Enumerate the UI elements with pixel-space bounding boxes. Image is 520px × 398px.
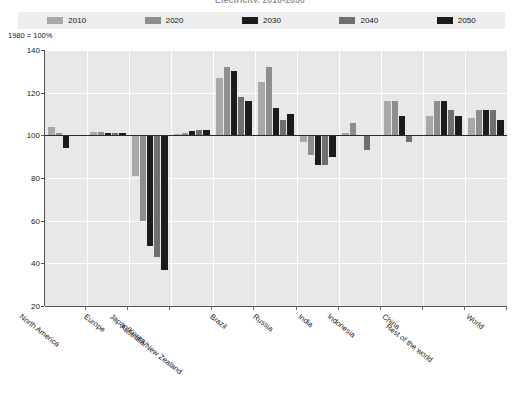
bar-slot — [105, 50, 111, 306]
bar-slot — [174, 50, 180, 306]
bar-2030[interactable] — [147, 135, 153, 246]
x-axis-label: World — [464, 312, 485, 331]
bar-2050[interactable] — [329, 135, 335, 156]
bar-2030[interactable] — [483, 110, 489, 136]
legend-item-2020[interactable]: 2020 — [145, 17, 184, 25]
bar-slot — [329, 50, 335, 306]
bar-set — [174, 50, 209, 306]
bar-2010[interactable] — [216, 78, 222, 136]
legend-swatch-icon — [145, 17, 161, 24]
legend-item-2040[interactable]: 2040 — [339, 17, 378, 25]
bar-slot — [273, 50, 279, 306]
bar-slot — [231, 50, 237, 306]
bar-slot — [384, 50, 390, 306]
bar-2030[interactable] — [315, 135, 321, 165]
x-label-cell: Brazil — [212, 310, 254, 372]
bar-slot — [413, 50, 419, 306]
bar-slot — [70, 50, 76, 306]
bar-2020[interactable] — [476, 110, 482, 136]
bar-2040[interactable] — [154, 135, 160, 257]
plot-area — [44, 50, 507, 306]
bar-2050[interactable] — [287, 114, 293, 135]
bar-slot — [322, 50, 328, 306]
bar-slot — [132, 50, 138, 306]
bar-set — [90, 50, 125, 306]
bar-2020[interactable] — [434, 101, 440, 135]
legend-swatch-icon — [437, 17, 453, 24]
legend-item-2050[interactable]: 2050 — [437, 17, 476, 25]
y-tick-label: 60 — [31, 216, 40, 225]
bar-group — [213, 50, 255, 306]
bar-2030[interactable] — [399, 116, 405, 135]
bar-2030[interactable] — [63, 135, 69, 148]
bar-2010[interactable] — [468, 118, 474, 135]
bar-slot — [308, 50, 314, 306]
y-tick-label: 120 — [27, 88, 40, 97]
bar-2020[interactable] — [392, 101, 398, 135]
bar-slot — [483, 50, 489, 306]
x-axis-label: Europe — [82, 312, 107, 334]
bar-2050[interactable] — [497, 120, 503, 135]
bar-slot — [161, 50, 167, 306]
bar-2010[interactable] — [300, 135, 306, 141]
bar-2020[interactable] — [140, 135, 146, 220]
bar-2040[interactable] — [490, 110, 496, 136]
bar-2050[interactable] — [245, 101, 251, 135]
bar-2040[interactable] — [238, 97, 244, 135]
bar-2020[interactable] — [224, 67, 230, 135]
bar-set — [216, 50, 251, 306]
legend-label: 2050 — [458, 17, 476, 25]
bar-2040[interactable] — [364, 135, 370, 150]
bar-slot — [300, 50, 306, 306]
bar-2050[interactable] — [161, 135, 167, 269]
bar-2040[interactable] — [448, 110, 454, 136]
bar-slot — [203, 50, 209, 306]
bar-slot — [238, 50, 244, 306]
bar-2040[interactable] — [406, 135, 412, 141]
bar-slot — [371, 50, 377, 306]
bar-2030[interactable] — [231, 71, 237, 135]
bar-2050[interactable] — [455, 116, 461, 135]
bar-slot — [112, 50, 118, 306]
bar-set — [384, 50, 419, 306]
legend-item-2030[interactable]: 2030 — [242, 17, 281, 25]
bar-slot — [342, 50, 348, 306]
bar-slot — [350, 50, 356, 306]
bar-group — [129, 50, 171, 306]
bar-2030[interactable] — [273, 108, 279, 136]
bar-slot — [182, 50, 188, 306]
bar-2010[interactable] — [384, 101, 390, 135]
bar-set — [48, 50, 83, 306]
bar-group — [339, 50, 381, 306]
bar-2020[interactable] — [308, 135, 314, 154]
y-tick-mark — [41, 178, 45, 179]
x-axis-label: Russia — [251, 312, 275, 333]
bar-slot — [224, 50, 230, 306]
bar-2020[interactable] — [266, 67, 272, 135]
bar-set — [426, 50, 461, 306]
bar-slot — [392, 50, 398, 306]
legend-item-2010[interactable]: 2010 — [47, 17, 86, 25]
bar-group — [87, 50, 129, 306]
x-label-cell: Russia — [254, 310, 296, 372]
bar-2030[interactable] — [441, 101, 447, 135]
bar-2020[interactable] — [350, 123, 356, 136]
x-label-cell: Australia/New Zealand — [170, 310, 212, 372]
legend-label: 2030 — [263, 17, 281, 25]
x-axis-label: India — [296, 312, 315, 329]
legend-label: 2040 — [360, 17, 378, 25]
bar-slot — [245, 50, 251, 306]
y-tick-label: 100 — [27, 131, 40, 140]
legend-label: 2010 — [68, 17, 86, 25]
bar-2010[interactable] — [132, 135, 138, 176]
bar-2040[interactable] — [322, 135, 328, 165]
bar-2010[interactable] — [258, 82, 264, 135]
y-tick-mark — [41, 50, 45, 51]
bar-2010[interactable] — [426, 116, 432, 135]
bar-slot — [497, 50, 503, 306]
chart-title: Electricity, 2010-2050 — [0, 0, 520, 3]
bar-slot — [154, 50, 160, 306]
bar-2040[interactable] — [280, 120, 286, 135]
x-axis-label: Brazil — [209, 312, 230, 331]
legend-swatch-icon — [242, 17, 258, 24]
